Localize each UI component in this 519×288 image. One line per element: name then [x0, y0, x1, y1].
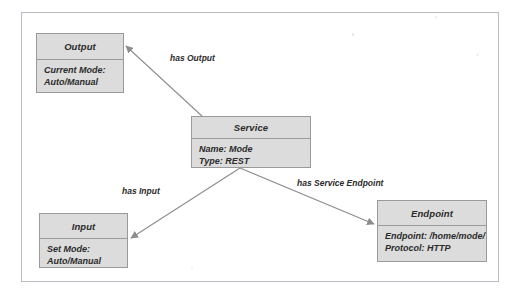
class-attributes-input: Set Mode: Auto/Manual — [40, 239, 127, 267]
class-box-input[interactable]: Input Set Mode: Auto/Manual — [39, 213, 128, 268]
class-attributes-output: Current Mode: Auto/Manual — [37, 60, 123, 92]
class-name-output: Output — [37, 34, 123, 60]
class-attribute: Auto/Manual — [47, 256, 120, 268]
edge-has-service-endpoint — [240, 168, 374, 224]
class-attributes-endpoint: Endpoint: /home/mode/ Protocol: HTTP — [378, 226, 486, 261]
class-name-endpoint: Endpoint — [378, 201, 486, 226]
edge-label-has-service-endpoint: has Service Endpoint — [297, 178, 383, 188]
class-attribute: Auto/Manual — [44, 77, 116, 89]
edge-label-has-output: has Output — [170, 53, 215, 63]
class-box-endpoint[interactable]: Endpoint Endpoint: /home/mode/ Protocol:… — [377, 200, 487, 262]
class-name-input: Input — [40, 214, 127, 239]
class-box-service[interactable]: Service Name: Mode Type: REST — [191, 116, 311, 168]
class-name-service: Service — [192, 117, 310, 139]
class-box-output[interactable]: Output Current Mode: Auto/Manual — [36, 33, 124, 93]
class-attribute: Type: REST — [199, 156, 303, 168]
class-attribute: Current Mode: — [44, 65, 116, 77]
diagram-canvas: Output Current Mode: Auto/Manual Service… — [0, 0, 519, 288]
edge-has-input — [131, 168, 240, 238]
class-attribute: Name: Mode — [199, 144, 303, 156]
class-attribute: Protocol: HTTP — [385, 243, 479, 255]
class-attribute: Endpoint: /home/mode/ — [385, 231, 479, 243]
class-attributes-service: Name: Mode Type: REST — [192, 139, 310, 167]
edge-label-has-input: has Input — [122, 186, 160, 196]
class-attribute: Set Mode: — [47, 244, 120, 256]
